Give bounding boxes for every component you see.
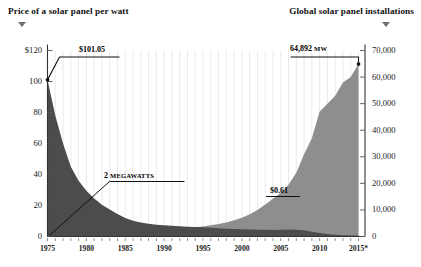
y-axis-tick-label: 100 [2, 77, 42, 86]
x-axis-tick-label: 1995 [185, 245, 221, 253]
x-axis-tick-label: 1990 [146, 245, 182, 253]
y-axis-tick-label: 0 [2, 232, 42, 241]
x-axis-tick-label: 2015* [341, 245, 377, 253]
y2-axis-tick-label: 70,000 [372, 46, 420, 55]
x-axis-tick-label: 2010 [302, 245, 338, 253]
x-axis-tick-label: 1985 [107, 245, 143, 253]
x-axis-tick-label: 2000 [224, 245, 260, 253]
x-axis-tick-label: 1975 [30, 245, 66, 253]
y2-axis-tick-label: 60,000 [372, 73, 420, 82]
y2-axis-tick-label: 10,000 [372, 205, 420, 214]
annotation-install-end: 64,892 MW [290, 45, 327, 53]
annotation-price-end: $0.61 [270, 187, 288, 195]
chart-plot-area [0, 0, 421, 267]
y-axis-tick-label: 80 [2, 108, 42, 117]
y-axis-tick-label: 60 [2, 139, 42, 148]
y-axis-tick-label: $120 [2, 46, 42, 55]
solar-chart-figure: Price of a solar panel per watt Global s… [0, 0, 421, 267]
y2-axis-tick-label: 0 [372, 232, 420, 241]
y2-axis-tick-label: 40,000 [372, 126, 420, 135]
y2-axis-tick-label: 20,000 [372, 179, 420, 188]
annotation-price-start: $101.05 [79, 46, 105, 54]
y-axis-tick-label: 40 [2, 170, 42, 179]
y-axis-tick-label: 20 [2, 201, 42, 210]
x-axis-tick-label: 2005 [263, 245, 299, 253]
annotation-install-start: 2 MEGAWATTS [104, 172, 154, 180]
x-axis-tick-label: 1980 [68, 245, 104, 253]
y2-axis-tick-label: 50,000 [372, 99, 420, 108]
y2-axis-tick-label: 30,000 [372, 152, 420, 161]
